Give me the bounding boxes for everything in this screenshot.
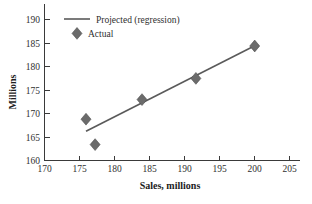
y-tick-label-165: 165	[26, 133, 41, 143]
y-axis-tick-labels: 190 185 180 175 170 165 160	[26, 15, 41, 166]
x-tick-label-175: 175	[72, 164, 87, 174]
x-axis-tick-labels: 170 175 180 185 190 195 200 205	[37, 164, 297, 174]
x-tick-label-205: 205	[282, 164, 297, 174]
y-tick-label-185: 185	[26, 39, 41, 49]
y-tick-label-190: 190	[26, 15, 41, 25]
x-tick-label-185: 185	[142, 164, 157, 174]
data-point	[90, 139, 100, 151]
data-point	[137, 94, 147, 106]
axis-frame	[45, 4, 301, 161]
y-axis-title: Millions	[7, 74, 18, 109]
chart-canvas: 190 185 180 175 170 165 160 170 175 180 …	[0, 0, 312, 204]
regression-line	[86, 46, 255, 132]
data-point	[250, 40, 260, 52]
y-tick-label-170: 170	[26, 109, 41, 119]
x-tick-label-180: 180	[107, 164, 122, 174]
chart-legend: Projected (regression) Actual	[64, 15, 180, 40]
legend-label-actual: Actual	[88, 29, 114, 39]
x-tick-label-190: 190	[177, 164, 192, 174]
scatter-chart: 190 185 180 175 170 165 160 170 175 180 …	[0, 0, 312, 204]
x-tick-label-200: 200	[247, 164, 262, 174]
data-point	[81, 113, 91, 125]
x-tick-label-195: 195	[212, 164, 227, 174]
x-tick-label-170: 170	[37, 164, 52, 174]
x-axis-title: Sales, millions	[140, 180, 201, 191]
x-axis-ticks	[45, 156, 290, 161]
legend-label-projected: Projected (regression)	[96, 15, 180, 26]
y-tick-label-175: 175	[26, 86, 41, 96]
series-projected-regression	[86, 46, 255, 132]
y-tick-label-180: 180	[26, 62, 41, 72]
legend-diamond-marker-icon	[72, 28, 82, 40]
y-axis-ticks	[45, 20, 50, 161]
